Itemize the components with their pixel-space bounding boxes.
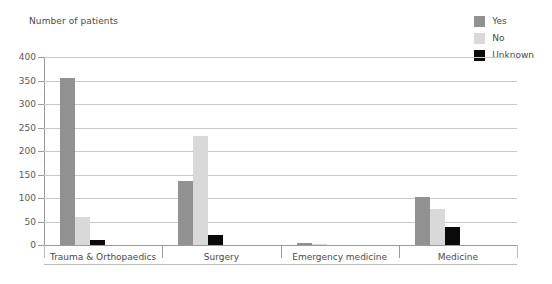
bar-group-bars <box>399 57 460 245</box>
bar-unknown[interactable] <box>445 227 460 245</box>
y-tick-label-250: 250 <box>6 124 36 133</box>
y-axis-title: Number of patients <box>29 16 118 26</box>
x-axis-category-label: Medicine <box>399 249 517 265</box>
bar-group-bars <box>162 57 223 245</box>
y-tick-label-0: 0 <box>6 241 36 250</box>
y-tick-label-200: 200 <box>6 147 36 156</box>
x-axis-category-label: Trauma & Orthopaedics <box>44 249 162 265</box>
bar-unknown[interactable] <box>208 235 223 245</box>
y-tick-label-100: 100 <box>6 194 36 203</box>
bar-no[interactable] <box>193 136 208 246</box>
bar-yes[interactable] <box>415 197 430 245</box>
y-tick-label-150: 150 <box>6 171 36 180</box>
bar-yes[interactable] <box>178 181 193 245</box>
y-tick-label-50: 50 <box>6 218 36 227</box>
y-tick-label-400: 400 <box>6 53 36 62</box>
bar-groups <box>44 57 517 245</box>
x-axis-category-label: Emergency medicine <box>281 249 399 265</box>
legend-swatch-no-icon <box>474 33 485 44</box>
y-tick-label-350: 350 <box>6 77 36 86</box>
x-axis-category-label: Surgery <box>162 249 280 265</box>
chart-legend: Yes No Unknown <box>474 16 534 61</box>
bar-group-bars <box>281 57 342 245</box>
bar-chart: Number of patients Yes No Unknown 050100… <box>0 0 552 284</box>
plot-area <box>44 57 517 245</box>
bar-group-bars <box>44 57 105 245</box>
legend-label-yes: Yes <box>492 16 507 27</box>
bar-group <box>44 57 162 245</box>
legend-item-no[interactable]: No <box>474 33 534 44</box>
x-axis-separator <box>517 245 518 258</box>
y-tick-label-300: 300 <box>6 100 36 109</box>
bar-group <box>162 57 280 245</box>
bar-group <box>399 57 517 245</box>
bar-group <box>281 57 399 245</box>
bar-no[interactable] <box>430 209 445 245</box>
x-axis-category-labels: Trauma & OrthopaedicsSurgeryEmergency me… <box>44 249 517 265</box>
bar-no[interactable] <box>75 217 90 245</box>
legend-label-no: No <box>492 33 504 44</box>
legend-item-yes[interactable]: Yes <box>474 16 534 27</box>
legend-swatch-yes-icon <box>474 16 485 27</box>
bar-yes[interactable] <box>60 78 75 245</box>
